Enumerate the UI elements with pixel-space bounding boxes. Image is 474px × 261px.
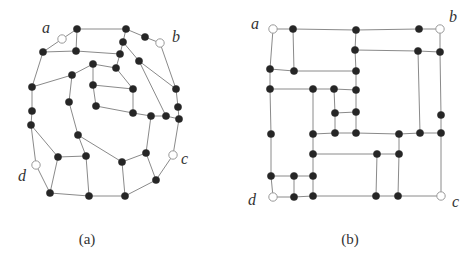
caption-b: (b)	[341, 231, 359, 248]
terminal-node	[169, 151, 177, 159]
vertex-node	[74, 131, 81, 138]
vertex-node	[73, 25, 80, 32]
edge	[31, 125, 58, 157]
terminal-label-a: a	[42, 19, 50, 36]
vertex-node	[129, 85, 136, 92]
vertex-node	[28, 107, 35, 114]
edge	[32, 75, 72, 87]
vertex-node	[416, 129, 423, 136]
edge	[440, 52, 441, 115]
vertex-node	[118, 158, 125, 165]
vertex-node	[175, 115, 182, 122]
terminal-node	[156, 39, 164, 47]
vertex-node	[351, 46, 358, 53]
vertex-node	[65, 98, 72, 105]
vertex-node	[112, 64, 119, 71]
vertex-node	[162, 112, 169, 119]
vertex-node	[68, 71, 75, 78]
edge	[116, 68, 133, 89]
edge	[293, 29, 356, 30]
vertex-node	[372, 192, 379, 199]
edge	[50, 193, 89, 196]
edge	[356, 133, 399, 134]
vertex-node	[152, 176, 159, 183]
vertex-node	[27, 121, 34, 128]
edge	[355, 50, 418, 51]
vertex-node	[290, 67, 297, 74]
figure-canvas: abcd (a) abcd (b)	[0, 0, 474, 261]
edge	[418, 51, 420, 133]
graph-b-terminal-labels: abcd	[248, 8, 459, 210]
vertex-node	[122, 25, 129, 32]
terminal-label-a: a	[251, 15, 259, 32]
vertex-node	[415, 25, 422, 32]
edge	[69, 75, 72, 102]
graph-a-edges	[31, 29, 179, 196]
vertex-node	[352, 108, 359, 115]
vertex-node	[395, 130, 402, 137]
vertex-node	[414, 47, 421, 54]
vertex-node	[437, 111, 444, 118]
caption-a: (a)	[79, 231, 96, 248]
vertex-node	[309, 150, 316, 157]
vertex-node	[72, 47, 79, 54]
vertex-node	[266, 85, 273, 92]
terminal-node	[269, 25, 277, 33]
vertex-node	[46, 189, 53, 196]
vertex-node	[309, 130, 316, 137]
vertex-node	[121, 192, 128, 199]
vertex-node	[174, 103, 181, 110]
edge	[270, 89, 271, 134]
terminal-node	[58, 35, 66, 43]
graph-b: abcd (b)	[248, 8, 459, 248]
vertex-node	[289, 25, 296, 32]
vertex-node	[147, 112, 154, 119]
edge	[139, 61, 166, 116]
vertex-node	[309, 172, 316, 179]
edge	[96, 106, 133, 113]
edge	[31, 125, 36, 165]
edge	[146, 116, 151, 153]
vertex-node	[331, 129, 338, 136]
vertex-node	[89, 81, 96, 88]
edge	[122, 162, 125, 196]
edge	[58, 156, 86, 157]
vertex-node	[394, 192, 401, 199]
terminal-label-b: b	[449, 8, 457, 25]
vertex-node	[116, 50, 123, 57]
terminal-node	[269, 193, 277, 201]
edge	[93, 85, 133, 89]
terminal-node	[32, 161, 40, 169]
vertex-node	[437, 129, 444, 136]
edge	[146, 153, 156, 180]
vertex-node	[352, 129, 359, 136]
vertex-node	[267, 172, 274, 179]
vertex-node	[119, 38, 126, 45]
vertex-node	[331, 109, 338, 116]
terminal-label-d: d	[248, 191, 257, 208]
edge	[86, 156, 89, 196]
edge	[356, 29, 419, 30]
edge	[76, 51, 120, 54]
vertex-node	[395, 150, 402, 157]
terminal-node	[436, 25, 444, 33]
vertex-node	[373, 150, 380, 157]
vertex-node	[135, 57, 142, 64]
vertex-node	[39, 48, 46, 55]
vertex-node	[28, 83, 35, 90]
vertex-node	[266, 65, 273, 72]
vertex-node	[309, 192, 316, 199]
edge	[376, 154, 377, 196]
edge	[173, 119, 179, 155]
vertex-node	[82, 152, 89, 159]
edge	[69, 102, 78, 135]
vertex-node	[142, 149, 149, 156]
vertex-node	[330, 85, 337, 92]
vertex-node	[352, 67, 359, 74]
terminal-label-c: c	[452, 193, 459, 210]
edge	[139, 61, 176, 89]
vertex-node	[92, 102, 99, 109]
terminal-node	[437, 192, 445, 200]
edge	[398, 154, 399, 196]
vertex-node	[436, 48, 443, 55]
